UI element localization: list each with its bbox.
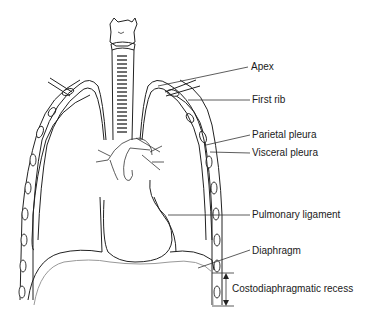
- thorax-diagram: Apex First rib Parietal pleura Visceral …: [0, 0, 371, 323]
- left-lung: [32, 80, 106, 250]
- larynx: [110, 18, 137, 50]
- heart-and-vessels: [96, 138, 176, 262]
- thorax-illustration: [0, 0, 371, 323]
- label-apex: Apex: [251, 61, 274, 73]
- label-costodiaphragmatic-recess: Costodiaphragmatic recess: [232, 283, 353, 295]
- trachea: [112, 50, 134, 140]
- right-chest-wall: [166, 80, 222, 305]
- left-chest-wall: [19, 80, 90, 300]
- label-pulmonary-ligament: Pulmonary ligament: [252, 209, 340, 221]
- label-first-rib: First rib: [252, 94, 285, 106]
- label-visceral-pleura: Visceral pleura: [252, 147, 318, 159]
- label-diaphragm: Diaphragm: [252, 245, 301, 257]
- right-lung: [140, 80, 212, 240]
- label-parietal-pleura: Parietal pleura: [252, 129, 316, 141]
- diaphragm-shape: [28, 250, 214, 305]
